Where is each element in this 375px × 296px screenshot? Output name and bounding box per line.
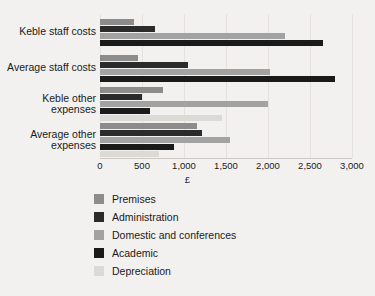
- legend-label: Academic: [112, 247, 158, 259]
- bar: [100, 130, 202, 136]
- category-axis: Keble staff costsAverage staff costsKebl…: [0, 14, 96, 158]
- bar: [100, 87, 163, 93]
- legend-item: Domestic and conferences: [94, 226, 236, 244]
- x-axis-line: [100, 158, 352, 159]
- bar: [100, 94, 142, 100]
- legend-item: Depreciation: [94, 262, 236, 280]
- bar: [100, 76, 335, 82]
- bar: [100, 108, 150, 114]
- x-axis-title: £: [0, 174, 375, 185]
- legend-swatch-icon: [94, 194, 104, 204]
- x-tick-label: 2,500: [298, 160, 322, 171]
- bar: [100, 144, 174, 150]
- legend-swatch-icon: [94, 266, 104, 276]
- x-tick-label: 0: [97, 160, 102, 171]
- category-label: Keble staff costs: [0, 26, 96, 38]
- category-label: Average other expenses: [0, 129, 96, 152]
- x-tick-label: 1,000: [172, 160, 196, 171]
- legend-swatch-icon: [94, 248, 104, 258]
- gridline: [352, 14, 353, 158]
- legend-swatch-icon: [94, 230, 104, 240]
- bar: [100, 26, 155, 32]
- legend-swatch-icon: [94, 212, 104, 222]
- legend-item: Academic: [94, 244, 236, 262]
- legend-label: Premises: [112, 193, 156, 205]
- x-tick-label: 500: [134, 160, 150, 171]
- category-label: Keble other expenses: [0, 93, 96, 116]
- plot-area: [100, 14, 352, 158]
- bar: [100, 40, 323, 46]
- category-label: Average staff costs: [0, 62, 96, 74]
- bar: [100, 137, 230, 143]
- chart-legend: PremisesAdministrationDomestic and confe…: [94, 190, 236, 280]
- bar: [100, 33, 285, 39]
- x-tick-label: 1,500: [214, 160, 238, 171]
- bar: [100, 69, 270, 75]
- gridline: [310, 14, 311, 158]
- bar: [100, 151, 159, 157]
- legend-item: Premises: [94, 190, 236, 208]
- legend-label: Administration: [112, 211, 179, 223]
- bar: [100, 19, 134, 25]
- legend-item: Administration: [94, 208, 236, 226]
- legend-label: Domestic and conferences: [112, 229, 236, 241]
- bar: [100, 123, 197, 129]
- legend-label: Depreciation: [112, 265, 171, 277]
- bar-chart: Keble staff costsAverage staff costsKebl…: [0, 0, 375, 296]
- bar: [100, 62, 188, 68]
- bar: [100, 55, 138, 61]
- bar: [100, 115, 222, 121]
- bar: [100, 101, 268, 107]
- x-tick-label: 3,000: [340, 160, 364, 171]
- x-tick-label: 2,000: [256, 160, 280, 171]
